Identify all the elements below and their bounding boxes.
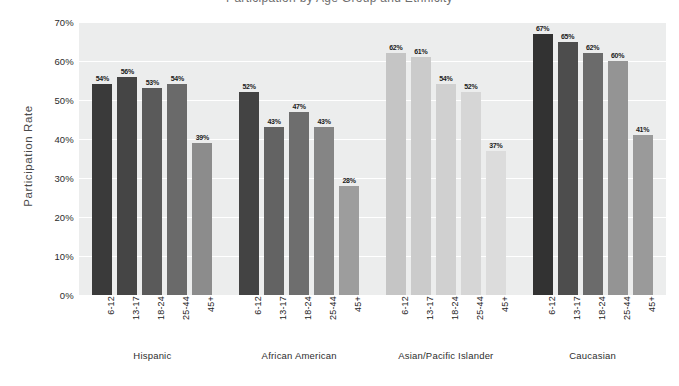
bar: 54%	[92, 84, 112, 295]
group-label: African American	[262, 350, 337, 361]
bar: 28%	[339, 186, 359, 295]
bar: 52%	[239, 92, 259, 295]
bar-value-label: 65%	[561, 33, 574, 40]
y-axis-tick-label: 0%	[40, 290, 74, 301]
bar-value-label: 47%	[292, 103, 305, 110]
bar-value-label: 61%	[414, 48, 427, 55]
bar-value-label: 56%	[121, 68, 134, 75]
plot-area: 54%56%53%54%39%52%43%47%43%28%62%61%54%5…	[79, 22, 666, 295]
bar-value-label: 54%	[171, 75, 184, 82]
bar: 65%	[558, 42, 578, 296]
y-axis-tick-label: 70%	[40, 17, 74, 28]
x-axis-tick-label: 45+	[647, 296, 657, 312]
bar: 39%	[192, 143, 212, 295]
bar-value-label: 28%	[342, 177, 355, 184]
gridline	[79, 61, 666, 62]
x-axis-tick-label: 18-24	[597, 296, 607, 320]
y-axis-tick-labels: 0%10%20%30%40%50%60%70%	[40, 22, 74, 295]
x-axis-tick-label: 18-24	[450, 296, 460, 320]
bar-value-label: 43%	[267, 118, 280, 125]
bar: 37%	[486, 151, 506, 295]
x-axis-tick-label: 6-12	[547, 296, 557, 315]
bar: 61%	[411, 57, 431, 295]
x-axis-tick-label: 25-44	[475, 296, 485, 320]
group-label: Asian/Pacific Islander	[398, 350, 493, 361]
y-axis-tick-label: 40%	[40, 134, 74, 145]
bar: 60%	[608, 61, 628, 295]
x-axis-tick-label: 13-17	[131, 296, 141, 320]
y-axis-tick-label: 30%	[40, 173, 74, 184]
group-label: Caucasian	[569, 350, 616, 361]
bar: 56%	[117, 77, 137, 295]
bar-value-label: 39%	[196, 134, 209, 141]
gridline	[79, 22, 666, 23]
bar: 54%	[436, 84, 456, 295]
bar: 67%	[533, 34, 553, 295]
bar: 43%	[314, 127, 334, 295]
bar-value-label: 52%	[242, 83, 255, 90]
x-axis-tick-label: 25-44	[328, 296, 338, 320]
bar: 53%	[142, 88, 162, 295]
x-axis-tick-label: 18-24	[303, 296, 313, 320]
y-axis-tick-label: 20%	[40, 212, 74, 223]
x-axis-tick-label: 45+	[353, 296, 363, 312]
x-axis-tick-label: 45+	[206, 296, 216, 312]
bar-value-label: 54%	[96, 75, 109, 82]
x-axis-tick-label: 6-12	[253, 296, 263, 315]
bar-value-label: 41%	[636, 126, 649, 133]
bar: 54%	[167, 84, 187, 295]
x-axis-tick-label: 6-12	[106, 296, 116, 315]
bar-value-label: 54%	[439, 75, 452, 82]
x-axis-tick-labels: 6-1213-1718-2425-4445+6-1213-1718-2425-4…	[79, 296, 666, 344]
bar: 43%	[264, 127, 284, 295]
x-axis-tick-label: 25-44	[181, 296, 191, 320]
y-axis-tick-label: 60%	[40, 56, 74, 67]
x-axis-tick-label: 18-24	[156, 296, 166, 320]
x-axis-tick-label: 45+	[500, 296, 510, 312]
y-axis-title: Participation Rate	[22, 66, 34, 246]
x-axis-tick-label: 25-44	[622, 296, 632, 320]
group-labels: HispanicAfrican AmericanAsian/Pacific Is…	[79, 350, 666, 370]
bar: 62%	[583, 53, 603, 295]
x-axis-tick-label: 13-17	[572, 296, 582, 320]
bar: 41%	[633, 135, 653, 295]
bar-value-label: 43%	[317, 118, 330, 125]
bar-value-label: 52%	[464, 83, 477, 90]
bar-value-label: 53%	[146, 79, 159, 86]
bar: 47%	[289, 112, 309, 295]
bar: 62%	[386, 53, 406, 295]
chart-container: Participation by Age Group and Ethnicity…	[0, 0, 679, 386]
x-axis-tick-label: 6-12	[400, 296, 410, 315]
group-label: Hispanic	[133, 350, 171, 361]
bar-value-label: 62%	[389, 44, 402, 51]
bar: 52%	[461, 92, 481, 295]
x-axis-tick-label: 13-17	[425, 296, 435, 320]
y-axis-tick-label: 50%	[40, 95, 74, 106]
bar-value-label: 60%	[611, 52, 624, 59]
x-axis-tick-label: 13-17	[278, 296, 288, 320]
bar-value-label: 67%	[536, 25, 549, 32]
chart-title: Participation by Age Group and Ethnicity	[0, 0, 679, 7]
bar-value-label: 37%	[489, 142, 502, 149]
y-axis-tick-label: 10%	[40, 251, 74, 262]
bar-value-label: 62%	[586, 44, 599, 51]
